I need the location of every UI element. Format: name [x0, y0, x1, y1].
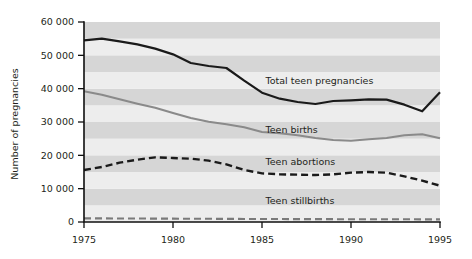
line-chart: 010 00020 00030 00040 00050 00060 000 19… — [0, 0, 472, 259]
background-band — [84, 55, 440, 72]
y-tick-label: 0 — [68, 216, 74, 227]
y-tick-label: 10 000 — [41, 183, 74, 194]
series-label: Teen abortions — [265, 156, 336, 167]
x-tick-label: 1975 — [72, 234, 96, 245]
x-tick-label: 1980 — [161, 234, 185, 245]
background-band — [84, 189, 440, 206]
background-bands — [84, 22, 440, 222]
y-tick-label: 50 000 — [41, 50, 74, 61]
y-axis-tick-labels: 010 00020 00030 00040 00050 00060 000 — [41, 16, 74, 227]
y-tick-label: 60 000 — [41, 16, 74, 27]
background-band — [84, 155, 440, 172]
series-label: Teen births — [265, 124, 318, 135]
x-tick-label: 1995 — [428, 234, 452, 245]
chart-figure: 010 00020 00030 00040 00050 00060 000 19… — [0, 0, 472, 259]
background-band — [84, 39, 440, 56]
background-band — [84, 105, 440, 122]
background-band — [84, 122, 440, 139]
background-band — [84, 22, 440, 39]
series-label: Teen stillbirths — [265, 195, 335, 206]
y-axis-title: Number of pregnancies — [9, 68, 20, 180]
y-tick-label: 20 000 — [41, 150, 74, 161]
y-tick-label: 30 000 — [41, 116, 74, 127]
x-axis-tick-labels: 19751980198519901995 — [72, 234, 452, 245]
x-tick-label: 1985 — [250, 234, 274, 245]
x-tick-label: 1990 — [339, 234, 363, 245]
y-tick-label: 40 000 — [41, 83, 74, 94]
series-label: Total teen pregnancies — [265, 75, 374, 86]
background-band — [84, 72, 440, 89]
background-band — [84, 139, 440, 156]
